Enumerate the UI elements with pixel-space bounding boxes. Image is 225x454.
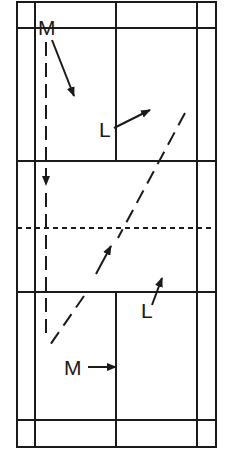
- player-labels: M L L M: [38, 16, 153, 379]
- label-l-bottom: L: [141, 299, 153, 322]
- shuttle-diagonal-path-arrow: [96, 246, 111, 274]
- shuttle-diagonal-path-upper: [118, 113, 185, 238]
- label-m-top: M: [38, 16, 56, 39]
- l-top-arrow: [114, 110, 150, 128]
- label-l-top: L: [99, 118, 111, 141]
- m-diagonal-arrow: [52, 40, 74, 96]
- badminton-court-diagram: M L L M: [0, 0, 225, 454]
- label-m-bottom: M: [64, 356, 82, 379]
- shuttle-diagonal-path-lower: [50, 296, 84, 345]
